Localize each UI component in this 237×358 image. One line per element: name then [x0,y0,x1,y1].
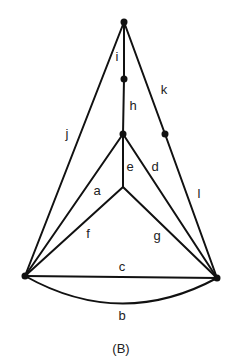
node-right [214,275,221,282]
node-left [22,273,29,280]
label-f: f [86,226,90,241]
graph-diagram: i h k j e d a l f g c b (B) [0,0,237,358]
label-j: j [65,126,69,141]
edge-k [124,22,165,134]
label-i: i [116,49,119,64]
label-e: e [126,159,133,174]
label-d: d [151,159,158,174]
edge-l [165,134,217,278]
edge-c [25,276,217,278]
label-c: c [119,259,126,274]
edge-h [123,79,124,134]
figure-caption: (B) [112,341,129,356]
edge-a [25,134,123,276]
edge-b [25,276,217,304]
label-k: k [161,82,168,97]
label-a: a [93,183,101,198]
node-ih [121,76,128,83]
label-g: g [153,228,160,243]
edge-j [25,22,124,276]
label-l: l [198,186,201,201]
edge-f [25,187,123,276]
node-kl [162,131,169,138]
label-h: h [129,98,136,113]
edge-g [123,187,217,278]
node-top [121,19,128,26]
edge-d [123,134,217,278]
node-mid [120,131,127,138]
label-b: b [118,308,125,323]
